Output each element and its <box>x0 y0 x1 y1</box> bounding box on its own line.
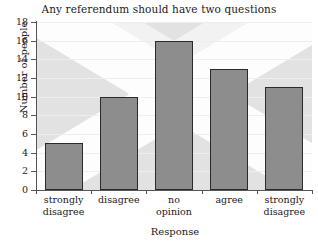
y-axis-tick-label: 0 <box>0 184 28 195</box>
x-axis-tick-labels: stronglydisagreedisagreenoopinionagreest… <box>36 194 312 224</box>
bar-slot <box>91 22 146 190</box>
x-axis-line <box>35 190 313 191</box>
y-axis-tick-label: 8 <box>0 109 28 120</box>
x-axis-tick-label: disagree <box>91 194 146 224</box>
bar-chart-figure: Any referendum should have two questions… <box>0 0 318 247</box>
x-axis-tick-label-line: disagree <box>91 194 146 206</box>
x-axis-tick-label: stronglydisagree <box>36 194 91 224</box>
x-axis-tick-label-line: disagree <box>257 206 312 218</box>
x-axis-tick-label-line: opinion <box>146 206 201 218</box>
x-axis-title: Response <box>36 226 314 237</box>
x-axis-tick-label-line: strongly <box>257 194 312 206</box>
y-axis-tick-label: 2 <box>0 165 28 176</box>
y-axis-tick-label: 6 <box>0 128 28 139</box>
bar <box>210 69 248 190</box>
bar-slot <box>146 22 201 190</box>
y-axis-tick-mark <box>31 115 36 116</box>
y-axis-tick-label: 16 <box>0 35 28 46</box>
x-axis-tick-label: agree <box>202 194 257 224</box>
chart-title: Any referendum should have two questions <box>0 3 318 15</box>
y-axis-line <box>36 21 37 191</box>
bar <box>155 41 193 190</box>
bar <box>100 97 138 190</box>
x-axis-tick-label-line: strongly <box>36 194 91 206</box>
bar-series <box>36 22 312 190</box>
y-axis-tick-label: 18 <box>0 16 28 27</box>
x-axis-tick-label-line: no <box>146 194 201 206</box>
x-axis-tick-label: stronglydisagree <box>257 194 312 224</box>
y-axis-tick-mark <box>31 22 36 23</box>
x-axis-tick-label-line: disagree <box>36 206 91 218</box>
bar-slot <box>257 22 312 190</box>
y-axis-tick-label: 10 <box>0 91 28 102</box>
x-axis-tick-mark <box>312 190 313 194</box>
y-axis-tick-label: 4 <box>0 147 28 158</box>
y-axis-tick-mark <box>31 134 36 135</box>
y-axis-tick-mark <box>31 97 36 98</box>
y-axis-tick-mark <box>31 78 36 79</box>
y-axis-tick-mark <box>31 59 36 60</box>
x-axis-tick-label: noopinion <box>146 194 201 224</box>
x-axis-tick-label-line: agree <box>202 194 257 206</box>
y-axis-tick-label: 14 <box>0 53 28 64</box>
plot-area <box>36 22 312 190</box>
bar <box>265 87 303 190</box>
y-axis-tick-mark <box>31 41 36 42</box>
y-axis-tick-mark <box>31 171 36 172</box>
bar <box>45 143 83 190</box>
y-axis-tick-mark <box>31 153 36 154</box>
bar-slot <box>36 22 91 190</box>
bar-slot <box>202 22 257 190</box>
y-axis-tick-label: 12 <box>0 72 28 83</box>
